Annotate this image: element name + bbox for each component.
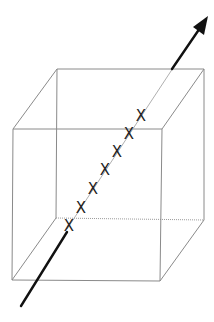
hit-mark-x: X <box>136 107 146 125</box>
cube-track-diagram: XXXXXXX <box>0 0 214 322</box>
hit-mark-x: X <box>76 199 86 217</box>
hit-marks: XXXXXXX <box>64 107 146 235</box>
particle-arrow <box>21 16 208 306</box>
cube-back-face <box>56 69 204 220</box>
hit-mark-x: X <box>100 161 110 179</box>
hit-mark-x: X <box>88 180 98 198</box>
arrow-tail-segment <box>21 232 67 306</box>
cube-front-face <box>12 129 162 281</box>
arrowhead-icon <box>193 16 208 35</box>
hit-mark-x: X <box>112 143 122 161</box>
hit-mark-x: X <box>64 217 74 235</box>
hit-mark-x: X <box>124 125 134 143</box>
arrow-head-segment <box>172 28 200 69</box>
